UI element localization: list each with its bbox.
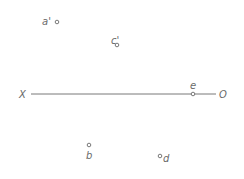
point-marker-a-prime	[55, 20, 59, 24]
point-label-e: e	[190, 80, 196, 91]
point-d: d	[158, 153, 170, 164]
point-a-prime: a'	[42, 16, 59, 27]
point-marker-c-prime	[115, 43, 119, 47]
point-label-b: b	[86, 150, 92, 161]
point-e: e	[190, 80, 196, 96]
point-marker-b	[87, 143, 91, 147]
axis-label-x: X	[18, 89, 27, 100]
point-b: b	[86, 143, 92, 161]
axis-label-o: O	[219, 89, 227, 100]
projection-diagram: X O a' c' e b d	[0, 0, 244, 179]
point-label-d: d	[163, 153, 170, 164]
point-marker-d	[158, 154, 162, 158]
point-marker-e	[191, 92, 195, 96]
point-label-a-prime: a'	[42, 16, 51, 27]
point-c-prime: c'	[111, 35, 119, 47]
